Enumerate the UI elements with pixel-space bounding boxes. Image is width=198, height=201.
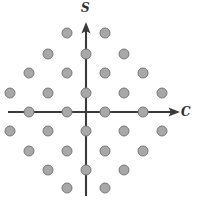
lattice-dot xyxy=(62,146,72,156)
lattice-dot xyxy=(119,165,129,175)
lattice-diagram: S C xyxy=(0,0,198,201)
s-axis-label: S xyxy=(81,2,90,14)
lattice-dot xyxy=(5,88,15,98)
lattice-dot xyxy=(119,88,129,98)
lattice-dot xyxy=(100,183,110,193)
lattice-dot xyxy=(81,165,91,175)
lattice-dot xyxy=(81,49,91,59)
lattice-dot xyxy=(62,107,72,117)
lattice-dot xyxy=(43,49,53,59)
lattice-dot xyxy=(100,146,110,156)
plot-area xyxy=(0,0,198,201)
lattice-dot xyxy=(100,107,110,117)
lattice-dot xyxy=(138,146,148,156)
lattice-dot xyxy=(24,146,34,156)
lattice-dot xyxy=(119,126,129,136)
lattice-dot xyxy=(5,126,15,136)
lattice-dot xyxy=(81,126,91,136)
lattice-dot xyxy=(62,68,72,78)
lattice-dot xyxy=(81,88,91,98)
lattice-dot xyxy=(24,68,34,78)
lattice-dot xyxy=(100,68,110,78)
lattice-dot xyxy=(157,88,167,98)
lattice-dot xyxy=(43,126,53,136)
lattice-dot xyxy=(62,183,72,193)
lattice-dot xyxy=(119,49,129,59)
lattice-dot xyxy=(24,107,34,117)
lattice-dot xyxy=(43,88,53,98)
lattice-dot xyxy=(138,107,148,117)
axis-group xyxy=(8,22,180,196)
lattice-dot xyxy=(62,28,72,38)
c-axis-label: C xyxy=(181,106,191,118)
lattice-dot xyxy=(157,126,167,136)
lattice-dot xyxy=(43,165,53,175)
lattice-dot xyxy=(138,68,148,78)
lattice-dot xyxy=(100,28,110,38)
